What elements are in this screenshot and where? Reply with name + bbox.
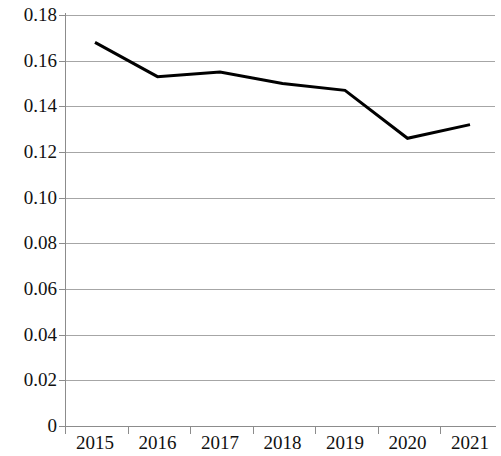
gridline (65, 335, 495, 336)
y-axis-line (65, 13, 66, 428)
x-axis-tick-label: 2015 (64, 432, 126, 454)
gridline (65, 243, 495, 244)
plot-area (65, 15, 495, 426)
gridline (65, 152, 495, 153)
x-axis-tick-label: 2017 (189, 432, 251, 454)
x-axis-line (64, 426, 496, 427)
y-axis-tick-label: 0.12 (1, 142, 57, 161)
y-tick (59, 15, 66, 16)
y-tick (59, 243, 66, 244)
y-axis-tick-label: 0.10 (1, 188, 57, 207)
gridline (65, 106, 495, 107)
y-axis-labels: 0.180.160.140.120.100.080.060.040.020 (0, 0, 57, 456)
y-axis-tick-label: 0 (1, 416, 57, 435)
gridline (65, 61, 495, 62)
y-tick (59, 198, 66, 199)
x-axis-tick-label: 2018 (252, 432, 314, 454)
y-axis-tick-label: 0.04 (1, 325, 57, 344)
gridline (65, 15, 495, 16)
y-axis-tick-label: 0.02 (1, 370, 57, 389)
gridline (65, 289, 495, 290)
y-axis-tick-label: 0.08 (1, 233, 57, 252)
y-tick (59, 152, 66, 153)
gridline (65, 380, 495, 381)
y-tick (59, 106, 66, 107)
y-axis-tick-label: 0.18 (1, 5, 57, 24)
y-axis-tick-label: 0.06 (1, 279, 57, 298)
x-axis-tick-label: 2016 (127, 432, 189, 454)
y-tick (59, 380, 66, 381)
x-axis-tick-label: 2019 (314, 432, 376, 454)
y-tick (59, 61, 66, 62)
y-axis-tick-label: 0.16 (1, 51, 57, 70)
y-tick (59, 289, 66, 290)
line-chart: 0.180.160.140.120.100.080.060.040.020 20… (0, 0, 501, 456)
gridline (65, 198, 495, 199)
x-axis-tick-label: 2021 (439, 432, 501, 454)
y-tick (59, 335, 66, 336)
x-axis-tick-label: 2020 (377, 432, 439, 454)
y-axis-tick-label: 0.14 (1, 96, 57, 115)
